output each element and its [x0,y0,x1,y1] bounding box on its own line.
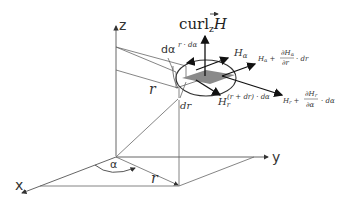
x-axis [22,157,116,193]
svg-text:∂α: ∂α [306,101,315,109]
radius-lower-label: r [151,170,159,186]
y-axis-label: y [272,149,280,165]
d-alpha-arc [173,66,178,88]
z-axis-label: z [119,17,126,33]
svg-text:∂Hr: ∂Hr [305,90,318,98]
field-vectors [187,36,282,95]
base-construction-lines [40,99,254,186]
arc-length-label: r · dα [178,41,198,49]
x-axis-label: x [15,177,23,193]
curl-diagram: z y x α r r dα dr r · dα curlzH Hα Hα+ ∂… [0,0,355,204]
h-alpha-plus-expression: Hα+ ∂Hα ∂r · dr [257,49,309,67]
svg-text:· dα: · dα [321,97,335,105]
h-alpha-label: Hα [233,47,248,60]
radius-upper-label: r [149,81,157,97]
d-alpha-label: dα [161,43,175,56]
h-r-plus-expression: Hr+ ∂Hr ∂α · dα [282,90,335,109]
dr-label: dr [180,100,192,111]
svg-text:· dr: · dr [296,55,309,63]
arc-length-outer-label: (r + dr) · dα [227,93,270,101]
svg-text:∂Hα: ∂Hα [281,49,295,57]
alpha-label: α [110,158,117,171]
upper-construction-lines [116,47,200,98]
svg-text:Hr+: Hr+ [282,97,300,105]
svg-text:curlzH: curlzH [179,15,228,34]
svg-text:Hα+: Hα+ [257,55,276,63]
svg-text:∂r: ∂r [282,59,290,67]
curl-label: curlzH [179,14,228,34]
d-alpha-pointer [168,58,173,70]
